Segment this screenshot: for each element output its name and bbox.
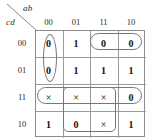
- cell-r2c1: ×: [63, 85, 90, 111]
- cell-r0c2: 0: [90, 31, 117, 57]
- cell-r2c3: 0: [118, 85, 145, 111]
- cell-r0c3: 0: [118, 31, 145, 57]
- column-header-1: 01: [63, 17, 90, 27]
- cell-r1c3: 1: [118, 58, 145, 84]
- cell-r1c1: 1: [63, 58, 90, 84]
- cell-r2c2: ×: [90, 85, 117, 111]
- cell-r3c0: 1: [35, 112, 62, 138]
- column-header-2: 11: [90, 17, 117, 27]
- column-header-3: 10: [118, 17, 145, 27]
- column-variable-label: ab: [23, 3, 33, 13]
- row-header-3: 10: [12, 119, 32, 129]
- cell-r2c0: ×: [35, 85, 62, 111]
- column-header-0: 00: [35, 17, 62, 27]
- cell-r1c0: 0: [35, 58, 62, 84]
- cell-r1c2: 1: [90, 58, 117, 84]
- cell-r3c1: 0: [63, 112, 90, 138]
- karnaugh-map: ab cd 00 01 11 10 00 01 11 10 0 1 0 0 0 …: [0, 0, 151, 140]
- axis-diagonal-divider: [0, 0, 40, 32]
- row-header-0: 00: [12, 38, 32, 48]
- cell-r3c3: 1: [118, 112, 145, 138]
- row-header-1: 01: [12, 65, 32, 75]
- cell-r0c1: 1: [63, 31, 90, 57]
- row-variable-label: cd: [6, 17, 15, 27]
- cell-r0c0: 0: [35, 31, 62, 57]
- cell-r3c2: ×: [90, 112, 117, 138]
- row-header-2: 11: [12, 92, 32, 102]
